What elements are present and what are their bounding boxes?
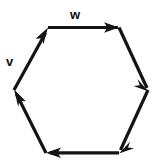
hexagon-vector-figure: w v — [0, 0, 162, 168]
edge-upper-left-shaft — [14, 33, 46, 90]
edge-bottom-arrow — [46, 148, 119, 159]
edge-lower-right-arrow — [119, 90, 148, 154]
edge-lower-left-arrow — [14, 90, 46, 154]
edge-upper-right-arrow — [119, 28, 149, 92]
edge-upper-left-arrow — [14, 28, 48, 91]
hexagon-diagram — [0, 0, 162, 168]
edge-lower-right-shaft — [121, 90, 149, 150]
edge-top-arrow — [48, 22, 119, 33]
edge-upper-right-shaft — [119, 28, 147, 89]
vector-label-v: v — [6, 55, 13, 68]
edge-lower-left-shaft — [17, 94, 47, 153]
vector-label-w: w — [70, 8, 80, 21]
